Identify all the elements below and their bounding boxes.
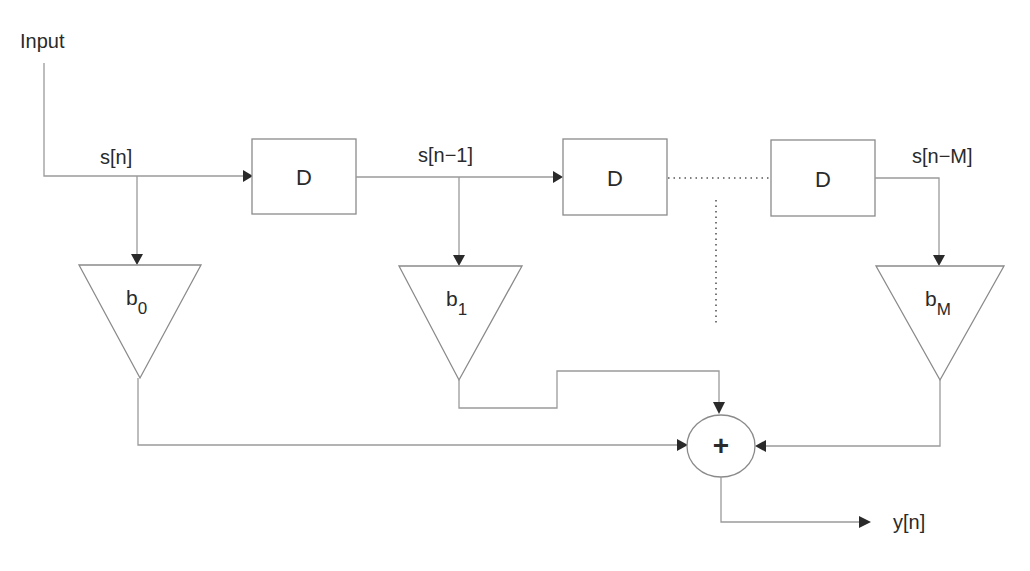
gain-bm-triangle xyxy=(876,266,1004,380)
tap-m-wire xyxy=(875,178,939,256)
arrow-down-icon xyxy=(933,255,945,266)
arrow-right-icon xyxy=(553,171,563,183)
gain-b1-triangle xyxy=(399,266,522,380)
delay-label: D xyxy=(815,167,831,192)
arrow-right-icon xyxy=(859,516,871,528)
arrow-down-icon xyxy=(131,254,143,265)
output-wire xyxy=(721,477,859,522)
delay-label: D xyxy=(607,166,623,191)
output-label: y[n] xyxy=(893,511,925,533)
gain-b0-triangle xyxy=(79,265,201,378)
bm-to-adder-wire xyxy=(765,380,940,446)
arrow-right-icon xyxy=(677,439,688,451)
fir-filter-diagram: Input s[n] D s[n−1] D D s[n−M] b0 b1 bM … xyxy=(0,0,1030,571)
signal-label-s-n-1: s[n−1] xyxy=(418,144,473,166)
input-label: Input xyxy=(20,30,65,52)
arrow-down-icon xyxy=(453,255,465,266)
signal-label-s-n: s[n] xyxy=(100,146,132,168)
b0-to-adder-wire xyxy=(138,378,678,445)
delay-label: D xyxy=(296,165,312,190)
input-wire xyxy=(44,63,243,176)
b1-to-adder-wire xyxy=(459,371,719,408)
arrow-left-icon xyxy=(755,440,766,452)
signal-label-s-n-m: s[n−M] xyxy=(912,145,973,167)
plus-icon: + xyxy=(713,430,729,461)
arrow-down-icon xyxy=(713,402,725,414)
